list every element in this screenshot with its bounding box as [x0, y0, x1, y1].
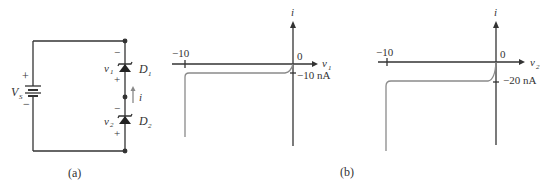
d2-plus-sign: +: [114, 127, 120, 139]
source-minus-sign: −: [23, 97, 30, 111]
graph2-iv-curve: [386, 62, 496, 151]
d1-minus-sign: −: [114, 46, 120, 58]
d2-voltage-label: v: [104, 115, 109, 127]
graph2-tick-label-minus10: −10: [376, 46, 394, 58]
d1-plus-sign: +: [114, 73, 120, 85]
graph1-x-label: v: [322, 57, 327, 69]
node-bottom: [123, 149, 127, 153]
graph1-y-arrow-icon: [290, 21, 296, 28]
zener-diode-d2-icon: [118, 114, 132, 124]
d2-label: D: [138, 114, 148, 128]
source-subscript: S: [19, 93, 23, 101]
current-arrow-icon: [131, 86, 136, 103]
figure-canvas: + − V S − + v 1 D 1 i − + v 2 D 2 (a) i …: [0, 0, 550, 188]
node-top: [123, 39, 127, 43]
zener-diode-d1-icon: [118, 62, 132, 72]
source-plus-sign: +: [22, 69, 29, 83]
graph1-tick-label-minus10: −10: [172, 47, 190, 59]
graph2-x-label: v: [530, 56, 535, 68]
graph1-iv-curve: [185, 64, 293, 137]
d1-voltage-subscript: 1: [110, 68, 114, 76]
graph2-y-arrow-icon: [493, 21, 499, 28]
d1-subscript: 1: [148, 70, 152, 78]
graph2-x-subscript: 2: [536, 63, 540, 71]
graph1-x-arrow-icon: [312, 61, 318, 67]
graph1: i v 1 −10 0 −10 nA: [172, 6, 332, 146]
d2-minus-sign: −: [114, 102, 120, 114]
graph2-y-label: i: [494, 6, 497, 18]
graph2: i v 2 −10 0 −20 nA: [376, 6, 540, 151]
caption-b: (b): [340, 165, 354, 179]
node-middle: [123, 95, 127, 99]
graph1-saturation-label: −10 nA: [297, 69, 330, 81]
battery-icon: [25, 86, 41, 96]
d1-label: D: [138, 62, 148, 76]
caption-a: (a): [68, 166, 81, 180]
d2-subscript: 2: [148, 122, 152, 130]
graph1-y-label: i: [291, 6, 294, 18]
graph2-origin-label: 0: [500, 48, 506, 60]
graph2-x-arrow-icon: [519, 59, 525, 65]
d1-voltage-label: v: [104, 62, 109, 74]
graph2-saturation-label: −20 nA: [503, 74, 536, 86]
d2-voltage-subscript: 2: [110, 121, 114, 129]
current-label: i: [139, 91, 142, 103]
graph1-origin-label: 0: [297, 50, 303, 62]
